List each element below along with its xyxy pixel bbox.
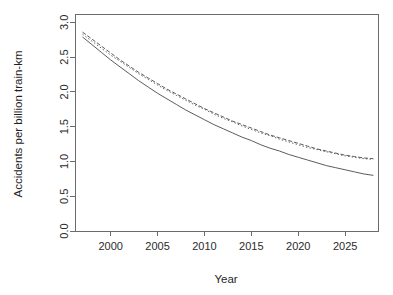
y-tick-label-3.0: 3.0	[58, 15, 70, 30]
y-tick-label-1.0: 1.0	[58, 154, 70, 169]
series-line-lower-solid	[83, 37, 374, 175]
y-tick-label-2.0: 2.0	[58, 84, 70, 99]
x-tick-label-2020: 2020	[286, 240, 310, 252]
chart-container: Year Accidents per billion train-km 2000…	[0, 0, 393, 295]
y-tick-label-0.0: 0.0	[58, 223, 70, 238]
line-chart: Year Accidents per billion train-km 2000…	[0, 0, 393, 295]
y-tick-label-0.5: 0.5	[58, 189, 70, 204]
x-tick-label-2025: 2025	[333, 240, 357, 252]
series-line-middle-dotted	[83, 34, 374, 159]
x-tick-label-2005: 2005	[145, 240, 169, 252]
y-tick-label-1.5: 1.5	[58, 119, 70, 134]
y-tick-label-2.5: 2.5	[58, 49, 70, 64]
axes-layer	[70, 14, 378, 236]
x-tick-label-2000: 2000	[98, 240, 122, 252]
series-line-upper-dashed	[83, 32, 374, 159]
series-layer	[83, 32, 374, 175]
x-tick-label-2010: 2010	[192, 240, 216, 252]
y-axis-title: Accidents per billion train-km	[12, 50, 24, 197]
axis-labels-layer: Year Accidents per billion train-km 2000…	[12, 15, 357, 285]
plot-frame	[75, 14, 378, 231]
x-axis-title: Year	[214, 273, 237, 285]
x-tick-label-2015: 2015	[239, 240, 263, 252]
